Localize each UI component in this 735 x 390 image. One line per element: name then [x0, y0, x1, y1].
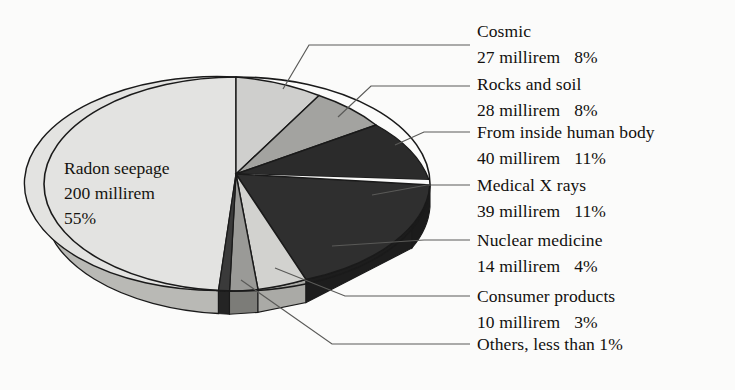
rim-others [219, 291, 230, 315]
rim-consumer-products [230, 289, 259, 314]
leader-line-from-inside-human-body [395, 132, 470, 145]
pie-chart-graphic [0, 0, 735, 390]
leader-line-cosmic [283, 45, 470, 89]
slice-radon-seepage [24, 77, 236, 291]
pie-chart-figure: Radon seepage 200 millirem 55% Cosmic 27… [0, 0, 735, 390]
